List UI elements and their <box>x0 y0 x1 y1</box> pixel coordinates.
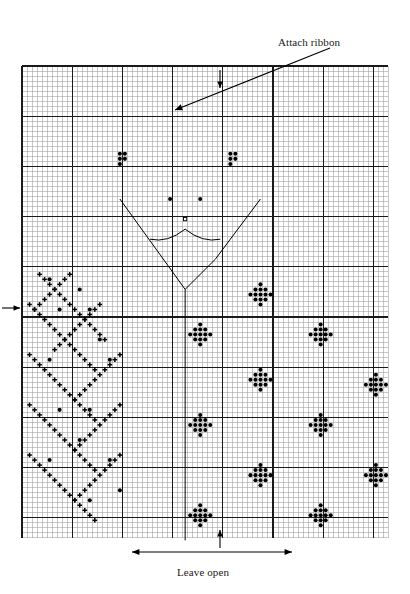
flower-center-stitch <box>319 513 323 517</box>
flower-stitch <box>379 383 383 387</box>
flower-stitch <box>319 338 323 342</box>
flower-stitch <box>374 378 378 382</box>
flower-stitch <box>314 333 318 337</box>
flower-stitch <box>253 383 257 387</box>
flower-stitch <box>324 338 328 342</box>
eye-stitch <box>228 152 232 156</box>
flower-stitch <box>258 478 262 482</box>
flower-stitch <box>374 393 378 397</box>
flower-stitch <box>369 478 373 482</box>
flower-stitch <box>258 483 262 487</box>
flower-stitch <box>198 338 202 342</box>
eye-stitch <box>118 157 122 161</box>
flower-stitch <box>258 368 262 372</box>
flower-stitch <box>203 423 207 427</box>
attach-ribbon-label: Attach ribbon <box>278 36 340 48</box>
accent-stitch <box>88 408 92 412</box>
flower-stitch <box>319 508 323 512</box>
flower-stitch <box>374 478 378 482</box>
flower-stitch <box>253 473 257 477</box>
flower-stitch <box>253 292 257 296</box>
flower-stitch <box>268 473 272 477</box>
eye-stitch <box>123 152 127 156</box>
flower-stitch <box>309 423 313 427</box>
flower-stitch <box>203 518 207 522</box>
flower-stitch <box>188 513 192 517</box>
accent-stitch <box>78 438 82 442</box>
flower-stitch <box>193 418 197 422</box>
cross-stitch-chart <box>0 0 410 594</box>
flower-stitch <box>188 423 192 427</box>
eye-stitch <box>233 152 237 156</box>
flower-stitch <box>364 473 368 477</box>
flower-stitch <box>263 478 267 482</box>
flower-stitch <box>329 513 333 517</box>
flower-stitch <box>193 338 197 342</box>
flower-stitch <box>253 378 257 382</box>
eye-stitch <box>228 157 232 161</box>
flower-stitch <box>258 373 262 377</box>
flower-stitch <box>198 343 202 347</box>
flower-stitch <box>193 518 197 522</box>
flower-stitch <box>198 328 202 332</box>
flower-center-stitch <box>198 423 202 427</box>
accent-stitch <box>88 307 92 311</box>
leave-open-arrow-right-icon <box>208 549 292 555</box>
flower-stitch <box>198 508 202 512</box>
flower-stitch <box>329 333 333 337</box>
left-center-arrow-right-icon <box>2 305 20 310</box>
flower-center-stitch <box>258 292 262 296</box>
flower-stitch <box>374 483 378 487</box>
eye-stitch <box>123 157 127 161</box>
pupil-stitch <box>198 197 202 201</box>
flower-stitch <box>319 413 323 417</box>
flower-stitch <box>314 518 318 522</box>
flower-stitch <box>314 328 318 332</box>
flower-center-stitch <box>198 513 202 517</box>
eye-stitch <box>228 162 232 166</box>
flower-stitch <box>193 428 197 432</box>
flower-stitch <box>193 513 197 517</box>
flower-stitch <box>203 328 207 332</box>
flower-stitch <box>193 508 197 512</box>
flower-stitch <box>263 383 267 387</box>
leave-open-label: Leave open <box>177 566 229 578</box>
flower-stitch <box>319 343 323 347</box>
flower-stitch <box>263 373 267 377</box>
flower-stitch <box>258 388 262 392</box>
flower-stitch <box>324 513 328 517</box>
accent-stitch <box>58 307 62 311</box>
eye-stitch <box>118 162 122 166</box>
flower-stitch <box>258 383 262 387</box>
flower-stitch <box>329 423 333 427</box>
flower-center-stitch <box>319 423 323 427</box>
flower-stitch <box>324 508 328 512</box>
flower-stitch <box>324 518 328 522</box>
flower-stitch <box>319 428 323 432</box>
flower-stitch <box>379 468 383 472</box>
flower-stitch <box>374 373 378 377</box>
flower-stitch <box>268 378 272 382</box>
accent-stitch <box>108 358 112 362</box>
flower-stitch <box>374 468 378 472</box>
flower-stitch <box>188 333 192 337</box>
flower-stitch <box>374 388 378 392</box>
flower-stitch <box>369 468 373 472</box>
flower-stitch <box>248 473 252 477</box>
flower-stitch <box>319 518 323 522</box>
pattern-chart-page: Attach ribbon Leave open <box>0 0 410 594</box>
flower-stitch <box>374 463 378 467</box>
flower-stitch <box>379 378 383 382</box>
flower-stitch <box>193 328 197 332</box>
flower-stitch <box>319 418 323 422</box>
flower-stitch <box>369 388 373 392</box>
flower-stitch <box>203 333 207 337</box>
flower-stitch <box>263 292 267 296</box>
flower-stitch <box>258 297 262 301</box>
flower-stitch <box>263 287 267 291</box>
flower-stitch <box>193 333 197 337</box>
flower-center-stitch <box>258 378 262 382</box>
flower-stitch <box>314 508 318 512</box>
flower-stitch <box>314 418 318 422</box>
accent-stitch <box>48 458 52 462</box>
